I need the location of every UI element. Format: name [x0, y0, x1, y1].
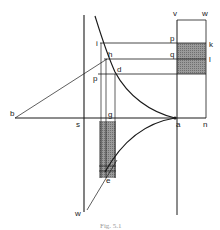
label-e: e — [106, 176, 111, 185]
upper-curve — [95, 16, 175, 118]
label-w-top: w — [201, 9, 208, 18]
label-d: d — [117, 65, 121, 74]
shaded-area-lower — [99, 121, 116, 178]
label-s: s — [76, 120, 80, 129]
label-n: n — [203, 120, 207, 129]
label-a: a — [176, 120, 181, 129]
label-v: v — [173, 9, 177, 18]
label-q: q — [170, 50, 174, 59]
label-k: k — [209, 40, 214, 49]
figure-caption: Fig. 5.1 — [100, 222, 122, 230]
label-p-left: p — [93, 74, 98, 83]
label-b: b — [10, 109, 15, 118]
label-l: l — [209, 55, 211, 64]
label-w-bottom: w — [74, 209, 81, 218]
shaded-area-upper — [177, 43, 206, 74]
label-p-top: p — [170, 34, 175, 43]
label-h: h — [108, 50, 112, 59]
line-b-h — [15, 59, 107, 118]
economics-diagram: v w p k q l i h d p b s g a n e w Fig. 5… — [0, 0, 220, 230]
label-g: g — [108, 110, 112, 119]
label-i: i — [96, 39, 98, 48]
